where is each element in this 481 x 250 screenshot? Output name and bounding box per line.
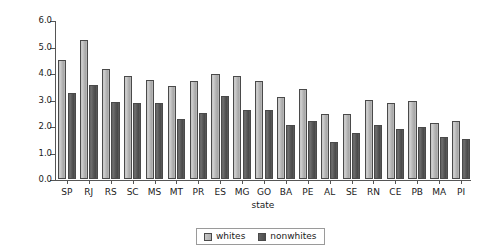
y-axis-title: years of school [2, 0, 16, 46]
bar-rn-whites [365, 100, 373, 180]
y-tick-label: 5.0 [38, 42, 52, 53]
bar-pb-nonwhites [418, 127, 426, 179]
bar-pb-whites [408, 101, 416, 179]
bar-ma-nonwhites [440, 137, 448, 179]
chart-legend: whitesnonwhites [196, 228, 325, 245]
x-tick-mark [352, 180, 353, 184]
bar-ma-whites [430, 123, 438, 179]
legend-swatch-nonwhites-icon [258, 233, 266, 241]
x-tick-mark [330, 180, 331, 184]
x-tick-mark [461, 180, 462, 184]
bar-ms-whites [146, 80, 154, 179]
x-tick-mark [308, 180, 309, 184]
x-axis-spine [55, 180, 471, 181]
bar-se-nonwhites [352, 133, 360, 179]
bar-sc-nonwhites [133, 103, 141, 179]
bar-ms-nonwhites [155, 103, 163, 179]
bar-rn-nonwhites [374, 125, 382, 179]
x-tick-mark [395, 180, 396, 184]
y-tick-label: 3.0 [38, 95, 52, 106]
bar-pr-whites [190, 81, 198, 179]
bar-pe-whites [299, 89, 307, 179]
x-tick-mark [286, 180, 287, 184]
legend-item-whites[interactable]: whites [204, 231, 245, 242]
x-tick-mark [155, 180, 156, 184]
x-tick-mark [242, 180, 243, 184]
x-axis-title: state [55, 199, 471, 211]
y-tick-label: 0.0 [38, 174, 52, 185]
bar-sp-whites [58, 60, 66, 179]
x-tick-mark [439, 180, 440, 184]
y-tick-label: 1.0 [38, 148, 52, 159]
x-tick-mark [373, 180, 374, 184]
bar-mt-whites [168, 86, 176, 179]
bar-es-nonwhites [221, 96, 229, 179]
bar-se-whites [343, 114, 351, 179]
x-tick-mark [133, 180, 134, 184]
bar-rj-nonwhites [89, 85, 97, 179]
y-tick-label: 6.0 [38, 15, 52, 26]
bar-sp-nonwhites [68, 93, 76, 179]
y-axis-spine [55, 21, 56, 181]
bar-pi-nonwhites [462, 139, 470, 179]
y-tick-label: 2.0 [38, 121, 52, 132]
bar-pi-whites [452, 121, 460, 179]
plot-area: 0.01.02.03.04.05.06.0 SPRJRSSCMSMTPRESMG… [55, 21, 471, 180]
bar-ce-nonwhites [396, 129, 404, 179]
bar-pe-nonwhites [308, 121, 316, 179]
y-tick-label: 4.0 [38, 68, 52, 79]
bar-mg-nonwhites [243, 110, 251, 179]
legend-item-nonwhites[interactable]: nonwhites [258, 231, 316, 242]
x-tick-mark [67, 180, 68, 184]
bar-ba-whites [277, 97, 285, 179]
x-tick-mark [264, 180, 265, 184]
bar-go-nonwhites [265, 110, 273, 179]
bar-es-whites [211, 74, 219, 179]
bar-al-whites [321, 114, 329, 179]
bar-mt-nonwhites [177, 119, 185, 179]
x-tick-label: PI [441, 186, 481, 198]
bar-ce-whites [387, 103, 395, 179]
x-tick-mark [111, 180, 112, 184]
bar-sc-whites [124, 76, 132, 179]
bar-go-whites [255, 81, 263, 179]
x-tick-mark [89, 180, 90, 184]
bar-mg-whites [233, 76, 241, 179]
legend-label: nonwhites [270, 231, 316, 242]
legend-label: whites [216, 231, 245, 242]
x-tick-mark [176, 180, 177, 184]
bar-rj-whites [80, 40, 88, 179]
bar-chart-figure: years of school 0.01.02.03.04.05.06.0 SP… [0, 0, 481, 250]
x-tick-mark [220, 180, 221, 184]
bar-al-nonwhites [330, 142, 338, 179]
bar-rs-nonwhites [111, 102, 119, 179]
bar-rs-whites [102, 69, 110, 179]
bar-pr-nonwhites [199, 113, 207, 179]
bar-ba-nonwhites [286, 125, 294, 179]
x-tick-mark [417, 180, 418, 184]
legend-swatch-whites-icon [204, 233, 212, 241]
x-tick-mark [198, 180, 199, 184]
